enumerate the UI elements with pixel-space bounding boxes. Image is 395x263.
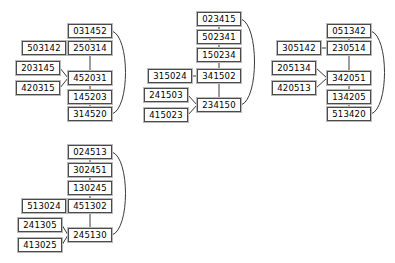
graph-node[interactable]: 413025 xyxy=(18,238,62,252)
graph-edge-curved xyxy=(371,31,385,114)
graph-node[interactable]: 415023 xyxy=(144,108,188,122)
graph-node[interactable]: 205134 xyxy=(272,61,316,75)
graph-node[interactable]: 130245 xyxy=(68,181,112,195)
graph-node-label: 245130 xyxy=(73,231,107,240)
graph-node-label: 503142 xyxy=(27,44,61,53)
graph-node[interactable]: 513420 xyxy=(327,107,371,121)
graph-node-label: 314520 xyxy=(73,110,107,119)
graph-node[interactable]: 145203 xyxy=(68,90,112,104)
graph-node[interactable]: 241503 xyxy=(144,88,188,102)
graph-node-label: 302451 xyxy=(73,166,107,175)
graph-node-label: 024513 xyxy=(73,148,107,157)
graph-node-label: 203145 xyxy=(21,64,55,73)
graph-node[interactable]: 245130 xyxy=(68,228,112,242)
graph-node[interactable]: 314520 xyxy=(68,107,112,121)
graph-node-label: 513420 xyxy=(332,110,366,119)
graph-node-label: 241503 xyxy=(149,91,183,100)
graph-node[interactable]: 051342 xyxy=(327,24,371,38)
graph-node-label: 205134 xyxy=(277,64,311,73)
graph-edge-straight xyxy=(188,95,197,105)
graph-node[interactable]: 305142 xyxy=(277,41,321,55)
graph-node-label: 420513 xyxy=(277,84,311,93)
graph-node-label: 031452 xyxy=(73,27,107,36)
graph-node[interactable]: 513024 xyxy=(22,199,66,213)
graph-edge-straight xyxy=(60,78,68,88)
graph-node-label: 415023 xyxy=(149,111,183,120)
graph-node[interactable]: 420315 xyxy=(16,81,60,95)
diagram-canvas: 0314525031422503142031454520314203151452… xyxy=(0,0,395,263)
graph-node[interactable]: 230514 xyxy=(327,41,371,55)
graph-node-label: 234150 xyxy=(202,101,236,110)
graph-node[interactable]: 134205 xyxy=(327,90,371,104)
graph-node[interactable]: 024513 xyxy=(68,145,112,159)
graph-node[interactable]: 250314 xyxy=(68,41,112,55)
graph-node[interactable]: 234150 xyxy=(197,98,241,112)
graph-node-label: 413025 xyxy=(23,241,57,250)
graph-node-label: 145203 xyxy=(73,93,107,102)
graph-node[interactable]: 315024 xyxy=(148,69,192,83)
graph-node[interactable]: 031452 xyxy=(68,24,112,38)
graph-edge-curved xyxy=(112,152,126,235)
graph-node-label: 502341 xyxy=(202,33,236,42)
graph-node-label: 230514 xyxy=(332,44,366,53)
graph-edge-straight xyxy=(60,68,68,78)
graph-node[interactable]: 150234 xyxy=(197,48,241,62)
graph-edge-curved xyxy=(112,31,126,114)
graph-node[interactable]: 452031 xyxy=(68,71,112,85)
graph-node-label: 420315 xyxy=(21,84,55,93)
graph-node-label: 305142 xyxy=(282,44,316,53)
graph-node-label: 315024 xyxy=(153,72,187,81)
graph-node[interactable]: 023415 xyxy=(197,12,241,26)
graph-node[interactable]: 302451 xyxy=(68,163,112,177)
graph-node[interactable]: 503142 xyxy=(22,41,66,55)
graph-node-label: 452031 xyxy=(73,74,107,83)
graph-node-label: 451302 xyxy=(73,202,107,211)
graph-node[interactable]: 342051 xyxy=(327,71,371,85)
graph-node-label: 250314 xyxy=(73,44,107,53)
graph-edge-curved xyxy=(241,19,255,105)
graph-node-label: 134205 xyxy=(332,93,366,102)
graph-node[interactable]: 203145 xyxy=(16,61,60,75)
graph-node[interactable]: 241305 xyxy=(18,218,62,232)
graph-node-label: 341502 xyxy=(202,72,236,81)
graph-edge-straight xyxy=(188,105,197,115)
graph-node[interactable]: 451302 xyxy=(68,199,112,213)
graph-node-label: 241305 xyxy=(23,221,57,230)
graph-node-label: 051342 xyxy=(332,27,366,36)
graph-node[interactable]: 341502 xyxy=(197,69,241,83)
graph-node-label: 150234 xyxy=(202,51,236,60)
graph-edge-straight xyxy=(316,68,327,78)
graph-node-label: 513024 xyxy=(27,202,61,211)
graph-node-label: 130245 xyxy=(73,184,107,193)
graph-node-label: 023415 xyxy=(202,15,236,24)
graph-node[interactable]: 502341 xyxy=(197,30,241,44)
graph-edge-straight xyxy=(316,78,327,88)
graph-node[interactable]: 420513 xyxy=(272,81,316,95)
graph-node-label: 342051 xyxy=(332,74,366,83)
